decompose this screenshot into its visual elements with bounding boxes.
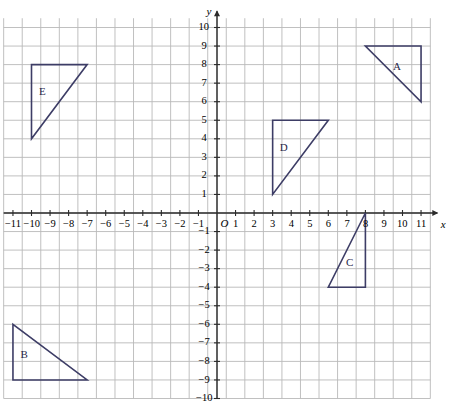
x-tick-label-6: 6 xyxy=(326,219,331,230)
x-tick-label-2: 2 xyxy=(252,219,257,230)
x-tick-label-7: 7 xyxy=(344,219,349,230)
y-tick-label-4: 4 xyxy=(202,133,207,144)
x-tick-label--3: −3 xyxy=(156,219,167,230)
x-tick-label-9: 9 xyxy=(382,219,387,230)
x-axis-arrow xyxy=(432,210,438,216)
x-tick-label-4: 4 xyxy=(289,219,294,230)
shape-label-b: B xyxy=(21,349,28,360)
x-axis-label: x xyxy=(441,219,446,230)
y-tick-label-7: 7 xyxy=(202,78,207,89)
y-tick-label--3: −3 xyxy=(199,263,210,274)
y-axis-label: y xyxy=(207,6,212,17)
x-tick-label--2: −2 xyxy=(174,219,185,230)
y-tick-label--9: −9 xyxy=(199,375,210,386)
shape-label-a: A xyxy=(393,61,401,72)
x-tick-label-8: 8 xyxy=(363,219,368,230)
x-tick-label-10: 10 xyxy=(397,219,408,230)
shape-label-c: C xyxy=(346,257,353,268)
x-tick-label--7: −7 xyxy=(82,219,93,230)
y-tick-label--4: −4 xyxy=(199,282,210,293)
y-tick-label-2: 2 xyxy=(202,170,207,181)
y-tick-label--10: −10 xyxy=(196,393,212,404)
x-tick-label-1: 1 xyxy=(233,219,238,230)
x-tick-label-3: 3 xyxy=(270,219,275,230)
y-tick-label-5: 5 xyxy=(202,115,207,126)
y-tick-label--2: −2 xyxy=(199,245,210,256)
y-tick-label-6: 6 xyxy=(202,96,207,107)
x-tick-label--8: −8 xyxy=(63,219,74,230)
x-tick-label--10: −10 xyxy=(24,219,40,230)
y-tick-label--1: −1 xyxy=(199,226,210,237)
x-tick-label--4: −4 xyxy=(137,219,148,230)
x-tick-label--5: −5 xyxy=(119,219,130,230)
y-tick-label--6: −6 xyxy=(199,319,210,330)
y-tick-label-3: 3 xyxy=(202,152,207,163)
x-tick-label-5: 5 xyxy=(307,219,312,230)
shape-label-e: E xyxy=(39,86,46,97)
x-tick-label--6: −6 xyxy=(100,219,111,230)
y-tick-label--7: −7 xyxy=(199,337,210,348)
y-tick-label--5: −5 xyxy=(199,300,210,311)
x-tick-label--9: −9 xyxy=(45,219,56,230)
y-axis-arrow xyxy=(214,10,220,16)
y-tick-label--8: −8 xyxy=(199,356,210,367)
y-tick-label-9: 9 xyxy=(202,41,207,52)
origin-label: O xyxy=(221,218,229,229)
y-tick-label-1: 1 xyxy=(202,189,207,200)
x-tick-label-11: 11 xyxy=(416,219,426,230)
axes xyxy=(4,10,439,398)
shape-label-d: D xyxy=(280,142,288,153)
y-tick-label-8: 8 xyxy=(202,59,207,70)
y-tick-label-10: 10 xyxy=(199,22,210,33)
x-tick-label--11: −11 xyxy=(5,219,21,230)
